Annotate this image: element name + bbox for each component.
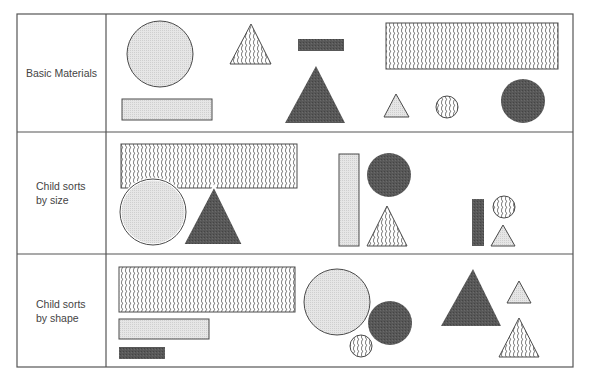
row-label-line-2: by shape <box>36 311 79 325</box>
medium-dark-circle <box>368 301 412 345</box>
row-label-by-shape: Child sorts by shape <box>17 254 106 367</box>
wavy-triangle <box>230 24 271 64</box>
large-dark-triangle <box>183 186 243 245</box>
small-light-triangle <box>507 281 531 303</box>
row-label-basic-materials: Basic Materials <box>17 14 106 132</box>
large-dark-triangle <box>441 269 501 326</box>
large-dark-triangle <box>285 66 345 123</box>
row-by-shape-shapes <box>119 267 539 359</box>
row-basic-materials-shapes <box>122 21 558 123</box>
row-by-size-shapes <box>120 144 515 246</box>
small-dark-rectangle <box>472 199 484 246</box>
small-wavy-circle <box>436 96 458 118</box>
row-label-text: Basic Materials <box>26 66 97 80</box>
row-label-line-1: Child sorts <box>36 297 86 311</box>
large-wavy-rectangle <box>119 267 295 312</box>
large-light-circle <box>127 21 193 87</box>
small-light-triangle <box>491 225 515 246</box>
small-wavy-circle <box>493 196 515 218</box>
small-light-triangle <box>384 94 409 117</box>
large-wavy-rectangle <box>386 23 558 69</box>
large-light-circle <box>304 269 370 335</box>
row-label-by-size: Child sorts by size <box>17 132 106 254</box>
wavy-triangle <box>367 206 407 246</box>
small-dark-rectangle <box>298 39 344 51</box>
light-rectangle <box>119 319 209 339</box>
tall-light-rectangle <box>339 154 359 246</box>
medium-dark-circle <box>367 153 411 197</box>
row-label-line-1: Child sorts <box>36 179 86 193</box>
small-wavy-circle <box>350 335 372 357</box>
wavy-triangle <box>499 318 539 357</box>
small-dark-rectangle <box>119 347 165 359</box>
medium-dark-circle <box>501 79 545 123</box>
light-rectangle <box>122 99 212 120</box>
row-label-line-2: by size <box>36 193 69 207</box>
